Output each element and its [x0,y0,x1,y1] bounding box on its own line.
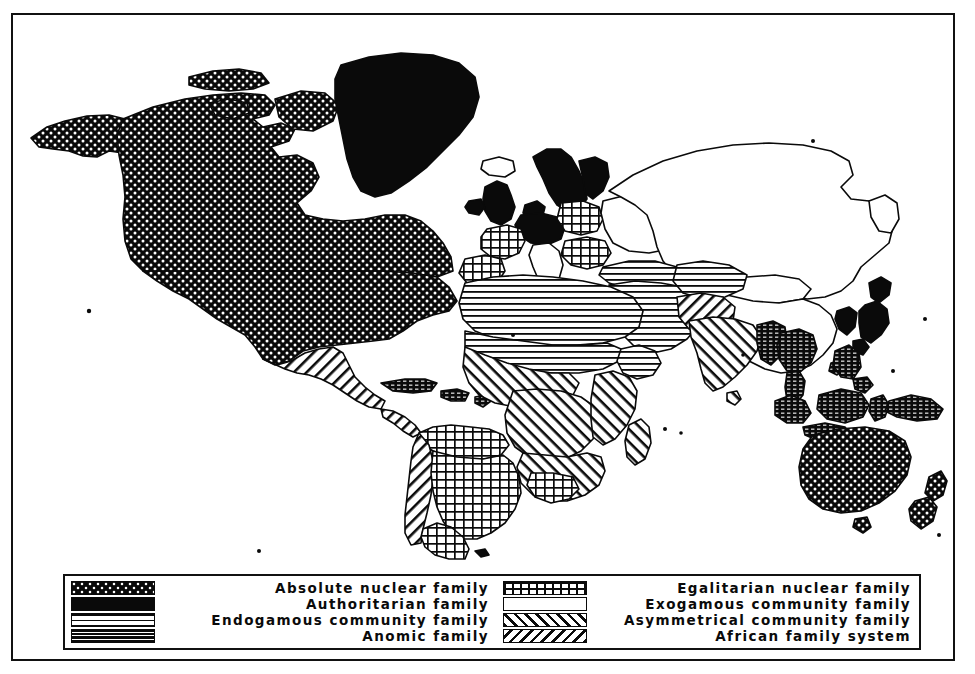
region-central-america [381,409,421,437]
region-iceland [481,157,515,177]
legend-swatch-stack-right [503,580,587,644]
region-poland [557,201,603,235]
legend-label-stack-left: Absolute nuclear family Authoritarian fa… [155,580,493,644]
legend-column-left: Absolute nuclear family Authoritarian fa… [65,576,497,648]
region-new-guinea [885,395,943,421]
legend-label-authoritarian: Authoritarian family [155,597,493,611]
region-cuba [381,379,437,393]
region-balkans [561,237,611,269]
map-legend: Absolute nuclear family Authoritarian fa… [63,574,921,650]
region-hispaniola [441,389,469,401]
legend-label-anomic: Anomic family [155,629,493,643]
legend-swatch-authoritarian [71,597,155,611]
region-ireland [465,199,485,215]
figure-page: Absolute nuclear family Authoritarian fa… [0,0,975,674]
world-map-svg [13,15,953,560]
region-tasmania [853,517,871,533]
region-borneo [817,389,869,423]
world-map [13,15,953,560]
region-philippines-south [853,377,873,393]
region-sumatra [775,395,811,423]
region-india [689,317,761,391]
region-japan-honshu [859,301,889,343]
legend-swatch-asymmetrical-community [503,613,587,627]
legend-swatch-exogamous-community [503,597,587,611]
region-horn-of-africa [617,345,661,379]
legend-label-stack-right: Egalitarian nuclear family Exogamous com… [587,580,915,644]
region-sri-lanka [727,391,741,405]
region-indochina [777,329,817,373]
region-new-zealand-south [909,497,937,529]
region-australia [799,427,911,513]
legend-swatch-egalitarian-nuclear [503,581,587,595]
region-british-isles [483,181,515,225]
legend-label-absolute-nuclear: Absolute nuclear family [155,581,493,595]
legend-label-african-family: African family system [587,629,915,643]
region-greenland [335,53,479,197]
legend-label-asymmetrical-community: Asymmetrical community family [587,613,915,627]
legend-swatch-anomic [71,629,155,643]
legend-label-egalitarian-nuclear: Egalitarian nuclear family [587,581,915,595]
region-arctic-islands [189,69,269,91]
region-japan [869,277,891,303]
region-united-states [143,271,457,365]
legend-swatch-endogamous-community [71,613,155,627]
legend-label-exogamous-community: Exogamous community family [587,597,915,611]
legend-column-right: Egalitarian nuclear family Exogamous com… [497,576,919,648]
legend-swatch-absolute-nuclear [71,581,155,595]
legend-swatch-stack-left [71,580,155,644]
region-madagascar [625,419,651,465]
legend-swatch-african-family [503,629,587,643]
region-korea [835,307,857,335]
region-france [481,225,525,259]
region-central-africa [505,389,599,461]
legend-label-endogamous-community: Endogamous community family [155,613,493,627]
region-falklands [475,549,489,557]
